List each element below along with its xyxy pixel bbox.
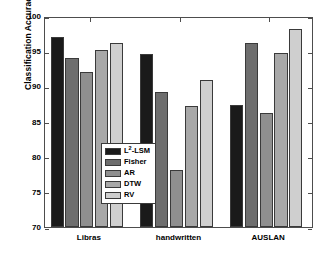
chart-legend: L2-LSMFisherARDTWRV (101, 143, 156, 204)
y-tick-label: 95 (32, 47, 41, 56)
legend-swatch-AR (105, 170, 121, 177)
y-tick-mark (45, 123, 49, 124)
legend-label-DTW: DTW (124, 180, 141, 188)
y-tick-mark-right (308, 88, 312, 89)
legend-item-RV: RV (105, 190, 152, 200)
legend-label-RV: RV (124, 191, 134, 199)
x-axis-label-Libras: Libras (77, 233, 101, 242)
bar-AR-handwritten (170, 170, 183, 227)
x-axis-label-AUSLAN: AUSLAN (251, 233, 284, 242)
bar-DTW-AUSLAN (274, 53, 287, 227)
legend-swatch-L2-LSM (105, 148, 121, 155)
plot-area: 707580859095100 L2-LSMFisherARDTWRV (44, 17, 313, 228)
legend-swatch-Fisher (105, 159, 121, 166)
legend-item-Fisher: Fisher (105, 157, 152, 167)
y-tick-mark (45, 53, 49, 54)
legend-label-Fisher: Fisher (124, 158, 147, 166)
bar-Fisher-handwritten (155, 92, 168, 227)
bar-AR-Libras (80, 72, 93, 227)
bar-L2-LSM-Libras (51, 37, 64, 227)
legend-swatch-RV (105, 192, 121, 199)
y-tick-label: 70 (32, 223, 41, 232)
y-tick-mark (45, 158, 49, 159)
bar-DTW-handwritten (185, 106, 198, 227)
y-tick-mark-right (308, 193, 312, 194)
y-tick-mark (45, 229, 49, 230)
chart-figure: Classification Accuracy 707580859095100 … (0, 0, 331, 254)
y-tick-mark-right (308, 123, 312, 124)
x-axis-label-handwritten: handwritten (156, 233, 201, 242)
bar-Fisher-AUSLAN (245, 43, 258, 227)
bar-L2-LSM-AUSLAN (230, 105, 243, 227)
x-tick-mark-top (90, 18, 91, 22)
y-tick-mark (45, 193, 49, 194)
y-tick-mark-right (308, 53, 312, 54)
bar-AR-AUSLAN (260, 113, 273, 227)
bar-RV-AUSLAN (289, 29, 302, 227)
legend-label-AR: AR (124, 169, 135, 177)
legend-item-AR: AR (105, 168, 152, 178)
y-tick-mark-right (308, 18, 312, 19)
y-axis-title: Classification Accuracy (23, 0, 33, 116)
y-tick-label: 90 (32, 82, 41, 91)
bar-RV-handwritten (200, 80, 213, 227)
y-tick-mark (45, 88, 49, 89)
x-tick-mark-top (269, 18, 270, 22)
y-tick-label: 85 (32, 118, 41, 127)
bar-Fisher-Libras (65, 58, 78, 227)
y-tick-label: 80 (32, 153, 41, 162)
y-tick-mark-right (308, 158, 312, 159)
legend-item-DTW: DTW (105, 179, 152, 189)
y-tick-mark (45, 18, 49, 19)
y-tick-label: 75 (32, 188, 41, 197)
legend-item-L2-LSM: L2-LSM (105, 146, 152, 156)
legend-label-L2-LSM: L2-LSM (124, 147, 150, 155)
legend-swatch-DTW (105, 181, 121, 188)
x-tick-mark-top (180, 18, 181, 22)
y-tick-mark-right (308, 229, 312, 230)
